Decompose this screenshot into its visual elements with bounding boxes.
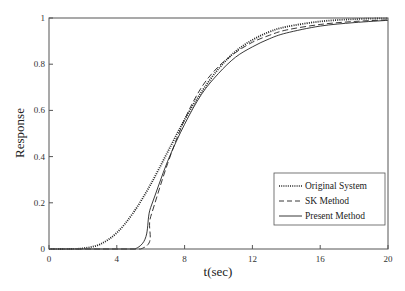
legend-label-original: Original System (305, 181, 368, 191)
x-tick-label: 4 (115, 254, 120, 264)
y-tick-label: 0.6 (34, 105, 46, 115)
legend-label-present: Present Method (305, 211, 365, 221)
x-tick-label: 0 (47, 254, 52, 264)
x-axis-label: t(sec) (204, 264, 233, 279)
y-tick-label: 0.4 (34, 152, 46, 162)
y-tick-label: 0.2 (34, 198, 45, 208)
axis-ticks: 04812162000.20.40.60.81 (34, 13, 393, 264)
legend-label-sk: SK Method (305, 196, 349, 206)
x-tick-label: 20 (384, 254, 394, 264)
x-tick-label: 16 (316, 254, 326, 264)
x-tick-label: 8 (182, 254, 187, 264)
y-tick-label: 0 (41, 244, 46, 254)
x-tick-label: 12 (248, 254, 257, 264)
y-axis-label: Response (12, 108, 27, 158)
y-tick-label: 1 (41, 13, 46, 23)
y-tick-label: 0.8 (34, 59, 46, 69)
response-chart: 04812162000.20.40.60.81 t(sec) Response … (0, 0, 405, 291)
legend: Original System SK Method Present Method (274, 173, 385, 225)
